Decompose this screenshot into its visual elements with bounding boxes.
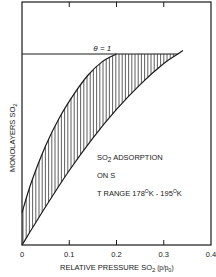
annotation-line-2: ON S xyxy=(97,171,115,180)
plot-frame xyxy=(22,2,211,245)
lower-bound-curve xyxy=(22,51,183,246)
x-tick-label: 0 xyxy=(20,250,24,259)
x-axis-label: RELATIVE PRESSURE SO2 (p/p0) xyxy=(60,263,174,273)
hatched-band xyxy=(23,54,209,245)
x-tick-label: 0.4 xyxy=(206,250,216,259)
annotation-line-3: T RANGE 178OK - 195OK xyxy=(97,188,182,198)
x-tick-label: 0.1 xyxy=(64,250,74,259)
theta-label: θ = 1 xyxy=(93,44,111,53)
x-axis-ticks: 00.10.20.30.4 xyxy=(20,2,216,259)
annotation-line-1: SO2 ADSORPTION xyxy=(97,153,163,163)
chart: θ = 1 00.10.20.30.4 MONOLAYERS SO2 RELAT… xyxy=(0,0,216,277)
x-tick-label: 0.3 xyxy=(159,250,169,259)
y-axis-label: MONOLAYERS SO2 xyxy=(8,103,18,172)
x-tick-label: 0.2 xyxy=(111,250,121,259)
